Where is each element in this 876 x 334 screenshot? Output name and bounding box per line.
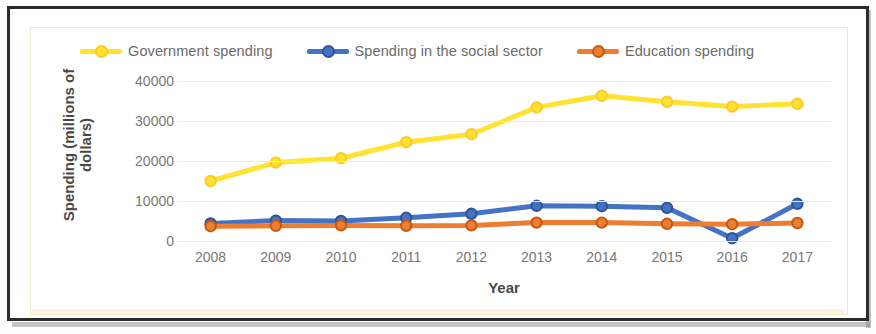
y-tick-label: 30000 <box>108 113 174 129</box>
data-point[interactable] <box>662 219 672 229</box>
x-tick-label: 2016 <box>717 249 748 265</box>
page-bottom-tint <box>32 309 844 313</box>
plot-wrapper: Spending (millions of dollars) 400003000… <box>30 27 848 315</box>
series-line-1 <box>211 204 798 238</box>
x-tick-label: 2012 <box>456 249 487 265</box>
gridline <box>178 161 830 162</box>
x-tick-label: 2010 <box>325 249 356 265</box>
x-tick-label: 2015 <box>651 249 682 265</box>
plot-area <box>178 81 830 241</box>
data-point[interactable] <box>531 102 541 112</box>
data-point[interactable] <box>466 220 476 230</box>
series-svg <box>178 67 830 257</box>
x-axis-tick-labels: 2008200920102011201220132014201520162017 <box>178 249 830 273</box>
data-point[interactable] <box>597 201 607 211</box>
x-tick-label: 2011 <box>391 249 421 265</box>
data-point[interactable] <box>792 99 802 109</box>
data-point[interactable] <box>466 209 476 219</box>
data-point[interactable] <box>597 91 607 101</box>
gridline <box>178 241 830 242</box>
gridline <box>178 201 830 202</box>
x-tick-label: 2013 <box>521 249 552 265</box>
data-point[interactable] <box>531 217 541 227</box>
data-point[interactable] <box>662 97 672 107</box>
data-point[interactable] <box>205 221 215 231</box>
y-tick-label: 0 <box>108 233 174 249</box>
series-line-0 <box>211 96 798 181</box>
data-point[interactable] <box>662 203 672 213</box>
data-point[interactable] <box>271 221 281 231</box>
data-point[interactable] <box>336 220 346 230</box>
data-point[interactable] <box>727 101 737 111</box>
y-tick-label: 20000 <box>108 153 174 169</box>
x-tick-label: 2009 <box>260 249 291 265</box>
y-tick-label: 10000 <box>108 193 174 209</box>
data-point[interactable] <box>597 217 607 227</box>
y-tick-label: 40000 <box>108 73 174 89</box>
x-tick-label: 2008 <box>195 249 226 265</box>
x-tick-label: 2017 <box>782 249 813 265</box>
gridline <box>178 81 830 82</box>
data-point[interactable] <box>531 201 541 211</box>
y-axis-title-text: Spending (millions of dollars) <box>60 69 94 222</box>
data-point[interactable] <box>271 157 281 167</box>
data-point[interactable] <box>401 137 411 147</box>
data-point[interactable] <box>401 221 411 231</box>
figure-outer-frame: Government spendingSpending in the socia… <box>7 6 869 321</box>
y-axis-title: Spending (millions of dollars) <box>55 50 99 240</box>
y-axis-title-line2: dollars) <box>77 118 94 172</box>
x-axis-title: Year <box>178 279 830 296</box>
scanned-page: Government spendingSpending in the socia… <box>0 0 876 334</box>
gridline <box>178 121 830 122</box>
page-shadow-bottom <box>12 322 870 327</box>
y-axis-title-line1: Spending (millions of <box>60 69 77 222</box>
data-point[interactable] <box>205 176 215 186</box>
y-axis-tick-labels: 400003000020000100000 <box>108 81 174 246</box>
data-point[interactable] <box>466 129 476 139</box>
x-tick-label: 2014 <box>586 249 617 265</box>
data-point[interactable] <box>792 218 802 228</box>
data-point[interactable] <box>727 219 737 229</box>
